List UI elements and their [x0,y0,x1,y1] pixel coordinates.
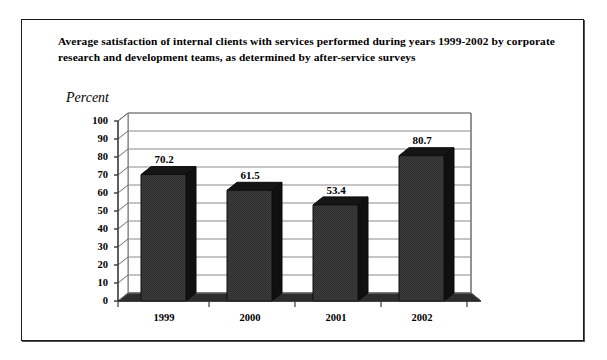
bar-2000[interactable] [227,182,282,301]
y-tick-label-70: 70 [82,170,108,180]
bar-2001-side [358,197,368,301]
bar-2002[interactable] [399,148,454,301]
x-tick-label-2000: 2000 [215,312,285,323]
y-tick-label-90: 90 [82,134,108,144]
x-axis-ticks [118,301,467,307]
y-tick-label-60: 60 [82,188,108,198]
x-tick-label-1999: 1999 [129,312,199,323]
figure-frame: Average satisfaction of internal clients… [21,19,584,341]
x-tick-label-2002: 2002 [387,312,457,323]
bar-1999-front [141,175,186,301]
bar-value-label-2002: 80.7 [392,134,452,146]
bar-value-label-2001: 53.4 [306,184,366,196]
bar-value-label-2000: 61.5 [220,169,280,181]
y-tick-label-80: 80 [82,152,108,162]
bar-1999-side [186,167,196,301]
y-tick-label-100: 100 [82,116,108,126]
bar-2002-front [399,156,444,301]
bar-1999[interactable] [141,167,196,301]
bar-value-label-1999: 70.2 [134,153,194,165]
bar-2000-side [272,182,282,301]
y-tick-label-30: 30 [82,242,108,252]
y-tick-label-10: 10 [82,278,108,288]
bar-2000-front [227,190,272,301]
bar-2001[interactable] [313,197,368,301]
x-tick-label-2001: 2001 [301,312,371,323]
bar-2002-side [444,148,454,301]
y-tick-label-40: 40 [82,224,108,234]
y-tick-label-20: 20 [82,260,108,270]
y-tick-label-0: 0 [82,296,108,306]
plot-area: 100 90 80 70 60 50 40 30 20 10 0 70.2 61… [22,20,585,342]
y-tick-label-50: 50 [82,206,108,216]
chart-canvas [22,20,585,342]
bar-2001-front [313,205,358,301]
